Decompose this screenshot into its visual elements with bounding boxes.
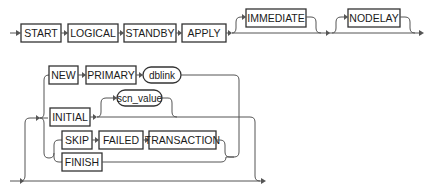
keyword-apply-label: APPLY bbox=[187, 27, 220, 39]
keyword-skip-label: SKIP bbox=[65, 134, 89, 146]
arrow-icon bbox=[16, 30, 21, 36]
alternatives-rail: NEW PRIMARY dblink INITIAL scn_value SKI… bbox=[10, 66, 266, 184]
keyword-immediate-label: IMMEDIATE bbox=[247, 12, 305, 24]
arrow-icon bbox=[261, 178, 266, 184]
variable-dblink-label: dblink bbox=[149, 70, 176, 81]
arrow-icon bbox=[36, 115, 40, 121]
arrow-icon bbox=[228, 30, 232, 36]
keyword-primary-label: PRIMARY bbox=[87, 69, 135, 81]
arrow-icon bbox=[326, 30, 330, 36]
statement-rail: START LOGICAL STANDBY APPLY IMMEDIATE NO bbox=[10, 9, 424, 42]
keyword-new-label: NEW bbox=[51, 69, 76, 81]
syntax-diagram: START LOGICAL STANDBY APPLY IMMEDIATE NO bbox=[0, 0, 428, 191]
arrow-icon bbox=[93, 114, 97, 120]
keyword-transaction-label: TRANSACTION bbox=[145, 134, 220, 146]
arrow-icon bbox=[419, 30, 424, 36]
keyword-logical-label: LOGICAL bbox=[70, 27, 116, 39]
keyword-standby-label: STANDBY bbox=[126, 27, 175, 39]
keyword-initial-label: INITIAL bbox=[52, 111, 88, 123]
keyword-failed-label: FAILED bbox=[103, 134, 140, 146]
variable-scn-value-label: scn_value bbox=[117, 93, 162, 104]
keyword-nodelay-label: NODELAY bbox=[349, 12, 398, 24]
keyword-start-label: START bbox=[24, 27, 58, 39]
keyword-finish-label: FINISH bbox=[65, 156, 99, 168]
